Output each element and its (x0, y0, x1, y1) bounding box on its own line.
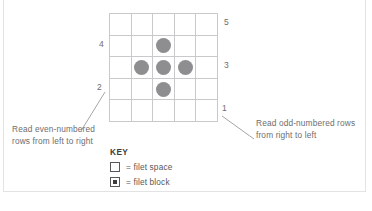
key-block: KEY = filet space = filet block (110, 147, 230, 189)
figure-canvas: 5 3 1 4 2 Read even-numbered rows from l… (0, 0, 372, 211)
key-label-filet-space: = filet space (126, 162, 172, 172)
dotted-square-icon (110, 177, 120, 187)
note-even-rows: Read even-numbered rows from left to rig… (12, 124, 108, 147)
key-label-filet-block: = filet block (126, 177, 170, 187)
key-title: KEY (110, 147, 230, 157)
key-item-filet-space: = filet space (110, 160, 230, 174)
empty-square-icon (110, 162, 120, 172)
note-odd-rows: Read odd-numbered rows from right to lef… (256, 118, 360, 141)
key-item-filet-block: = filet block (110, 175, 230, 189)
